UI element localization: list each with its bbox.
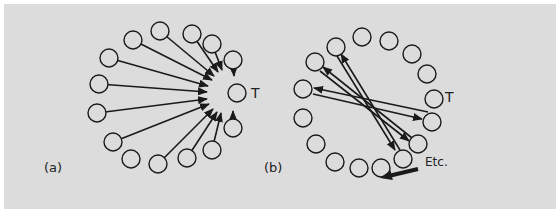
node (88, 104, 106, 122)
panel-a-converging (88, 22, 246, 173)
etc-label: Etc. (425, 155, 448, 169)
node (307, 135, 325, 153)
node (224, 119, 242, 137)
node (418, 65, 436, 83)
arrow (109, 58, 208, 86)
network-diagram: (a) T (b) T Etc. (0, 0, 560, 217)
node (224, 51, 242, 69)
node (327, 38, 345, 56)
node (100, 49, 118, 67)
node (183, 25, 201, 43)
arrow (99, 84, 207, 92)
panel-a-label: (a) (44, 160, 62, 175)
node (353, 28, 371, 46)
node (122, 150, 140, 168)
node (124, 31, 142, 49)
node (380, 32, 398, 50)
panel-a-target-label: T (250, 85, 260, 101)
node (294, 109, 312, 127)
node (423, 113, 441, 131)
arrow (323, 67, 412, 138)
node (326, 153, 344, 171)
panel-b-label: (b) (264, 160, 282, 175)
node (350, 159, 368, 177)
node (203, 35, 221, 53)
node (203, 141, 221, 159)
node (394, 150, 412, 168)
node (178, 149, 196, 167)
node (90, 75, 108, 93)
node (409, 135, 427, 153)
node (306, 53, 324, 71)
node (149, 155, 167, 173)
node (294, 80, 312, 98)
arrow (314, 88, 428, 112)
node (104, 133, 122, 151)
target-node (228, 84, 246, 102)
node (403, 45, 421, 63)
node (151, 22, 169, 40)
panel-b-exchange (294, 28, 443, 180)
target-node (425, 90, 443, 108)
panel-b-target-label: T (444, 89, 454, 105)
